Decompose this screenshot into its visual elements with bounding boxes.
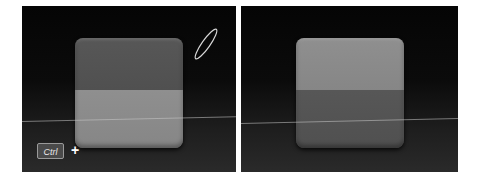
viewport-after [241, 6, 458, 172]
ctrl-key-badge: Ctrl [37, 143, 64, 159]
mesh-box-before[interactable] [75, 38, 183, 148]
brush-cursor-icon [192, 24, 220, 64]
box-top-half-unmasked [296, 38, 404, 90]
box-top-half-masked [75, 38, 183, 90]
plus-icon: + [71, 142, 79, 158]
mesh-box-after[interactable] [296, 38, 404, 148]
viewport-before: Ctrl + [22, 6, 236, 172]
